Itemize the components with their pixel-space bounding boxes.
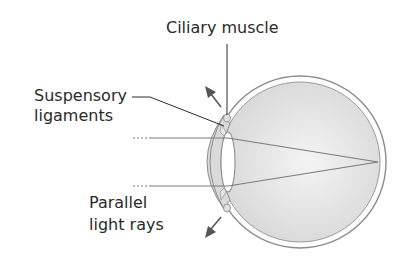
label-parallel-line2: light rays xyxy=(89,215,164,234)
label-parallel-line1: Parallel xyxy=(89,193,147,212)
ciliary-muscle-top xyxy=(224,114,231,122)
suspensory-leader-line xyxy=(132,97,224,126)
ciliary-muscle-bottom xyxy=(224,204,231,212)
arrow-down-left-icon xyxy=(205,217,221,238)
arrow-up-left-icon xyxy=(205,86,221,107)
label-suspensory-line1: Suspensory xyxy=(34,86,127,105)
eye-diagram xyxy=(0,0,406,264)
label-suspensory-line2: ligaments xyxy=(34,106,113,125)
label-ciliary-muscle: Ciliary muscle xyxy=(166,18,279,37)
eyeball xyxy=(214,76,386,248)
lens xyxy=(221,132,235,192)
